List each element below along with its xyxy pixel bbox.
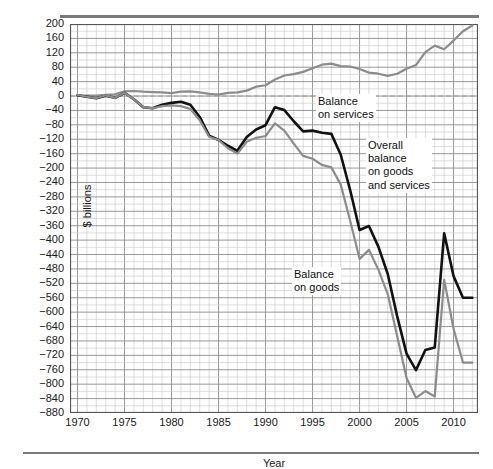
bottom-divider-rule xyxy=(23,452,479,454)
annotation-line: on services xyxy=(318,108,374,121)
x-tick-label: 1985 xyxy=(197,417,241,428)
y-tick-label: −760 xyxy=(18,364,64,375)
x-tick-label: 1995 xyxy=(291,417,335,428)
y-tick-label: 40 xyxy=(18,76,64,87)
y-tick-label: 160 xyxy=(18,32,64,43)
x-tick-label: 2010 xyxy=(432,417,476,428)
y-tick-label: 120 xyxy=(18,47,64,58)
y-tick-label: −680 xyxy=(18,335,64,346)
annotation-line: and services xyxy=(368,179,430,192)
x-tick-label: 1975 xyxy=(103,417,147,428)
annotation-line: Balance xyxy=(318,95,374,108)
y-tick-label: −600 xyxy=(18,306,64,317)
y-tick-label: −560 xyxy=(18,292,64,303)
x-tick-label: 1980 xyxy=(150,417,194,428)
y-tick-label: 0 xyxy=(18,90,64,101)
y-tick-label: −120 xyxy=(18,133,64,144)
x-tick-label: 2000 xyxy=(338,417,382,428)
x-tick-label: 2005 xyxy=(385,417,429,428)
x-tick-label: 1990 xyxy=(244,417,288,428)
annotation-overall-balance: Overall balance on goods and services xyxy=(366,138,432,193)
plot-area: 20016012080400−40−80−120−160−200−240−280… xyxy=(70,24,478,413)
annotation-line: balance xyxy=(368,152,430,165)
y-tick-label: −840 xyxy=(18,393,64,404)
y-tick-label: −40 xyxy=(18,104,64,115)
y-tick-label: −280 xyxy=(18,191,64,202)
y-axis-title: $ billions xyxy=(81,146,93,266)
y-tick-label: −240 xyxy=(18,176,64,187)
y-tick-label: −480 xyxy=(18,263,64,274)
y-tick-label: −360 xyxy=(18,220,64,231)
annotation-line: Overall xyxy=(368,139,430,152)
y-tick-label: −800 xyxy=(18,378,64,389)
y-tick-label: −80 xyxy=(18,119,64,130)
top-divider-rule xyxy=(60,15,479,18)
x-axis-tick-labels: 197019751980198519901995200020052010 xyxy=(70,417,478,433)
y-tick-label: −720 xyxy=(18,349,64,360)
x-axis-title: Year xyxy=(70,457,478,469)
x-tick-label: 1970 xyxy=(56,417,100,428)
y-tick-label: −160 xyxy=(18,148,64,159)
y-tick-label: 200 xyxy=(18,18,64,29)
y-tick-label: −440 xyxy=(18,249,64,260)
y-tick-label: −320 xyxy=(18,205,64,216)
y-tick-label: 80 xyxy=(18,61,64,72)
plot-canvas xyxy=(70,24,478,413)
annotation-line: on goods xyxy=(294,281,339,294)
y-axis-tick-labels: 20016012080400−40−80−120−160−200−240−280… xyxy=(16,24,64,413)
annotation-line: on goods xyxy=(368,165,430,178)
annotation-line: Balance xyxy=(294,268,339,281)
annotation-balance-on-services: Balance on services xyxy=(316,94,376,122)
y-tick-label: −520 xyxy=(18,277,64,288)
y-tick-label: −640 xyxy=(18,321,64,332)
y-tick-label: −400 xyxy=(18,234,64,245)
annotation-balance-on-goods: Balance on goods xyxy=(292,267,341,295)
y-tick-label: −200 xyxy=(18,162,64,173)
